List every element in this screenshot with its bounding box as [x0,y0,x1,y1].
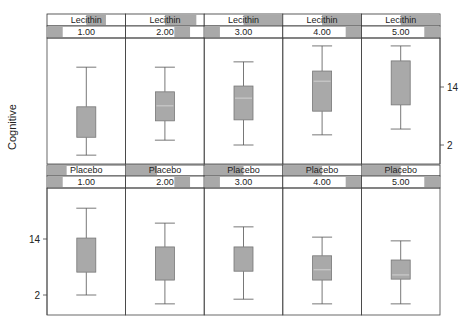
strip-level-label: 4.00 [313,177,331,187]
strip-level-shade [204,177,220,188]
strip-level-shade [47,27,63,38]
box [234,86,253,120]
strip-level-label: 2.00 [156,27,174,37]
strip-level-shade [174,27,190,38]
strip-level-shade [424,27,440,38]
strip-level-shade [346,27,362,38]
strip-group-label: Lecithin [149,15,180,25]
box [313,256,332,280]
strip-level-label: 4.00 [313,27,331,37]
strip-level-shade [174,177,190,188]
strip-level-label: 1.00 [78,27,96,37]
strip-group-label: Placebo [306,165,339,175]
box [77,238,96,272]
strip-level-label: 1.00 [78,177,96,187]
y-tick-label: 14 [447,82,459,93]
strip-level-shade [424,177,440,188]
box [155,92,174,121]
boxplot-chart: Lecithin1.00Lecithin2.00Lecithin3.00Leci… [0,0,468,330]
strip-level-label: 5.00 [392,177,410,187]
strip-level-label: 3.00 [235,177,253,187]
box [155,247,174,280]
y-tick-label: 14 [29,234,41,245]
strip-level-label: 2.00 [156,177,174,187]
strip-group-label: Lecithin [307,15,338,25]
strip-level-shade [47,177,63,188]
box [234,247,253,271]
box [313,71,332,111]
strip-level-shade [204,27,220,38]
strip-level-label: 3.00 [235,27,253,37]
y-axis-label: Cognitive [6,104,18,150]
strip-level-label: 5.00 [392,27,410,37]
box [77,107,96,137]
strip-group-label: Lecithin [385,15,416,25]
strip-group-label: Placebo [384,165,417,175]
y-tick-label: 2 [34,290,40,301]
box [391,260,410,279]
strip-shade [47,166,67,176]
strip-group-label: Placebo [227,165,260,175]
strip-group-label: Lecithin [228,15,259,25]
strip-group-label: Lecithin [71,15,102,25]
box [391,61,410,105]
y-tick-label: 2 [447,140,453,151]
strip-group-label: Placebo [70,165,103,175]
strip-level-shade [346,177,362,188]
strip-group-label: Placebo [149,165,182,175]
